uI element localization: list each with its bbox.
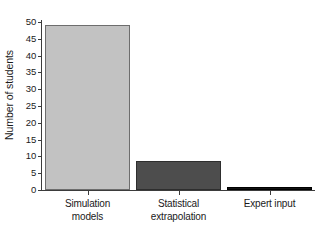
- y-axis-title: Number of students: [0, 0, 18, 190]
- x-axis-label-1: Simulationmodels: [42, 198, 133, 223]
- y-tick-mark: [38, 190, 42, 191]
- x-axis-label-line: Expert input: [224, 198, 315, 211]
- plot-area: [42, 22, 315, 190]
- y-tick-label: 40: [26, 50, 36, 61]
- x-tick-mark: [270, 191, 271, 195]
- x-tick-mark: [179, 191, 180, 195]
- bar-2[interactable]: [136, 161, 220, 190]
- y-tick-label: 35: [26, 66, 36, 77]
- x-axis-label-line: models: [42, 211, 133, 224]
- x-axis-label-line: extrapolation: [133, 211, 224, 224]
- x-axis-label-2: Statisticalextrapolation: [133, 198, 224, 223]
- y-tick-label: 25: [26, 100, 36, 111]
- x-axis-label-3: Expert input: [224, 198, 315, 211]
- bar-1[interactable]: [45, 25, 129, 190]
- y-axis-title-text: Number of students: [3, 50, 15, 140]
- y-tick-label: 45: [26, 33, 36, 44]
- y-tick-label: 15: [26, 134, 36, 145]
- y-tick-label: 5: [31, 167, 36, 178]
- y-tick-label: 0: [31, 184, 36, 195]
- bar-3[interactable]: [227, 187, 311, 190]
- x-axis-label-line: Simulation: [42, 198, 133, 211]
- bar-chart-figure: Number of students 05101520253035404550 …: [0, 0, 334, 236]
- x-axis-label-line: Statistical: [133, 198, 224, 211]
- y-tick-label: 30: [26, 83, 36, 94]
- y-tick-label: 10: [26, 150, 36, 161]
- y-tick-label: 50: [26, 16, 36, 27]
- y-tick-label: 20: [26, 117, 36, 128]
- x-tick-mark: [88, 191, 89, 195]
